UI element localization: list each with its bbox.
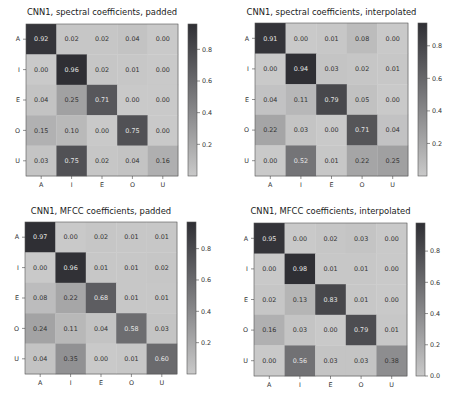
y-tick-label: O xyxy=(15,127,20,135)
chart-title: CNN1, MFCC coefficients, interpolated xyxy=(251,206,411,216)
cell-value-label: 0.00 xyxy=(33,264,47,272)
confusion-matrices-figure: CNN1, spectral coefficients, padded0.920… xyxy=(0,0,450,403)
cell-value-label: 0.71 xyxy=(95,96,109,104)
cell-value-label: 0.00 xyxy=(262,265,276,273)
cell-value-label: 0.00 xyxy=(34,66,48,74)
x-tick-label: E xyxy=(329,181,333,189)
cell-value-label: 0.00 xyxy=(156,66,170,74)
cell-value-label: 0.22 xyxy=(263,126,277,134)
cell-value-label: 0.00 xyxy=(95,127,109,135)
cell-value-label: 0.03 xyxy=(293,326,307,334)
cell-value-label: 0.56 xyxy=(293,357,307,365)
y-tick-label: A xyxy=(16,35,21,43)
cell-value-label: 0.96 xyxy=(63,264,77,272)
cell-value-label: 0.16 xyxy=(156,157,170,165)
cell-value-label: 0.01 xyxy=(124,233,138,241)
cell-value-label: 0.05 xyxy=(355,96,369,104)
cell-value-label: 0.01 xyxy=(124,355,138,363)
cell-value-label: 0.01 xyxy=(354,296,368,304)
colorbar-tick-label: 0.4 xyxy=(202,109,212,117)
cell-value-label: 0.16 xyxy=(262,326,276,334)
y-tick-label: E xyxy=(15,294,19,302)
cell-value-label: 0.01 xyxy=(94,264,108,272)
y-tick-label: E xyxy=(16,96,20,104)
cell-value-label: 0.00 xyxy=(324,126,338,134)
y-tick-label: U xyxy=(15,157,20,165)
cell-value-label: 0.00 xyxy=(263,65,277,73)
cell-value-label: 0.68 xyxy=(94,294,108,302)
cell-value-label: 0.04 xyxy=(386,126,400,134)
cell-value-label: 0.02 xyxy=(355,65,369,73)
y-tick-label: U xyxy=(244,157,249,165)
colorbar-tick-label: 0.4 xyxy=(430,310,440,318)
colorbar-tick-label: 0.4 xyxy=(201,308,211,316)
y-tick-label: A xyxy=(244,235,249,243)
x-tick-label: A xyxy=(39,181,44,189)
x-tick-label: U xyxy=(390,181,395,189)
y-tick-label: I xyxy=(17,264,19,272)
cell-value-label: 0.71 xyxy=(355,126,369,134)
colorbar xyxy=(187,222,196,374)
y-tick-label: U xyxy=(243,357,248,365)
cell-value-label: 0.00 xyxy=(94,355,108,363)
chart-title: CNN1, spectral coefficients, padded xyxy=(27,7,177,17)
cell-value-label: 0.01 xyxy=(124,264,138,272)
x-tick-label: U xyxy=(160,181,165,189)
cell-value-label: 0.02 xyxy=(323,235,337,243)
cell-value-label: 0.00 xyxy=(156,127,170,135)
cell-value-label: 0.25 xyxy=(386,157,400,165)
cell-value-label: 0.10 xyxy=(64,127,78,135)
cell-value-label: 0.94 xyxy=(294,65,308,73)
cell-value-label: 0.52 xyxy=(294,157,308,165)
cell-value-label: 0.01 xyxy=(124,294,138,302)
x-tick-label: I xyxy=(300,181,302,189)
cell-value-label: 0.00 xyxy=(293,235,307,243)
cell-value-label: 0.00 xyxy=(263,157,277,165)
cell-value-label: 0.04 xyxy=(94,325,108,333)
cell-value-label: 0.00 xyxy=(156,35,170,43)
cell-value-label: 0.01 xyxy=(155,233,169,241)
colorbar-tick-label: 0.2 xyxy=(202,141,212,149)
x-tick-label: E xyxy=(100,181,104,189)
cell-value-label: 0.96 xyxy=(64,66,78,74)
y-tick-label: I xyxy=(247,65,249,73)
cell-value-label: 0.02 xyxy=(64,35,78,43)
x-tick-label: I xyxy=(71,181,73,189)
cell-value-label: 0.91 xyxy=(263,35,277,43)
cell-value-label: 0.03 xyxy=(294,126,308,134)
x-tick-label: A xyxy=(38,379,43,387)
x-tick-label: U xyxy=(389,381,394,389)
cell-value-label: 0.25 xyxy=(64,96,78,104)
cell-value-label: 0.01 xyxy=(386,65,400,73)
x-tick-label: O xyxy=(130,181,135,189)
confusion-matrix-panel-3: CNN1, MFCC coefficients, padded0.970.000… xyxy=(14,206,211,387)
cell-value-label: 0.13 xyxy=(293,296,307,304)
y-tick-label: I xyxy=(246,265,248,273)
cell-value-label: 0.00 xyxy=(385,235,399,243)
cell-value-label: 0.03 xyxy=(324,65,338,73)
cell-value-label: 0.04 xyxy=(33,355,47,363)
y-tick-label: U xyxy=(14,355,19,363)
x-tick-label: O xyxy=(359,381,364,389)
cell-value-label: 0.75 xyxy=(64,157,78,165)
cell-value-label: 0.04 xyxy=(34,96,48,104)
cell-value-label: 0.01 xyxy=(324,157,338,165)
colorbar-tick-label: 0.6 xyxy=(202,77,212,85)
cell-value-label: 0.04 xyxy=(125,157,139,165)
cell-value-label: 0.01 xyxy=(155,294,169,302)
chart-title: CNN1, spectral coefficients, interpolate… xyxy=(247,7,417,17)
cell-value-label: 0.11 xyxy=(294,96,308,104)
x-tick-label: O xyxy=(129,379,134,387)
cell-value-label: 0.75 xyxy=(125,127,139,135)
cell-value-label: 0.04 xyxy=(125,35,139,43)
colorbar-tick-label: 0.2 xyxy=(432,140,442,148)
colorbar-tick-label: 0.2 xyxy=(430,341,440,349)
y-tick-label: A xyxy=(15,233,20,241)
cell-value-label: 0.00 xyxy=(262,357,276,365)
cell-value-label: 0.01 xyxy=(324,35,338,43)
cell-value-label: 0.00 xyxy=(385,265,399,273)
colorbar-tick-label: 0.4 xyxy=(432,107,442,115)
cell-value-label: 0.00 xyxy=(385,296,399,304)
x-tick-label: O xyxy=(360,181,365,189)
cell-value-label: 0.00 xyxy=(323,326,337,334)
